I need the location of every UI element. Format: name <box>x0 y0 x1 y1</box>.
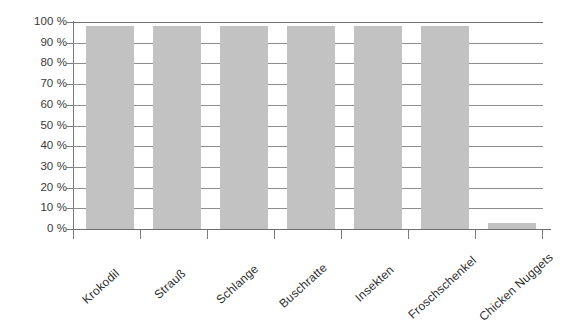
bar-schlange <box>220 26 268 229</box>
x-tick-mark <box>274 230 275 239</box>
bar-chart: 100 % 90 % 80 % 70 % 60 % 50 % 40 % 30 %… <box>0 0 577 322</box>
bar-insekten <box>354 26 402 229</box>
bar-froschschenkel <box>421 26 469 229</box>
y-tick-label: 40 % <box>7 140 67 152</box>
x-tick-mark <box>207 230 208 239</box>
y-axis-tick-labels: 100 % 90 % 80 % 70 % 60 % 50 % 40 % 30 %… <box>5 0 67 322</box>
y-tick-label: 90 % <box>7 37 67 49</box>
y-tick-label: 20 % <box>7 182 67 194</box>
y-tick-label: 10 % <box>7 202 67 214</box>
x-tick-mark <box>140 230 141 239</box>
x-tick-mark <box>73 230 74 239</box>
y-tick-label: 50 % <box>7 120 67 132</box>
y-tick-label: 100 % <box>7 16 67 28</box>
bar-buschratte <box>287 26 335 229</box>
x-tick-mark <box>341 230 342 239</box>
y-tick-label: 80 % <box>7 57 67 69</box>
x-category-label-buschratte: Buschratte <box>277 261 330 310</box>
bar-krokodil <box>86 26 134 229</box>
x-category-label-froschschenkel: Froschschenkel <box>406 254 479 322</box>
plot-area <box>73 22 543 229</box>
x-axis-line <box>73 229 551 230</box>
bar-strauss <box>153 26 201 229</box>
x-category-label-chicken-nuggets: Chicken Nuggets <box>477 251 556 322</box>
x-tick-mark <box>408 230 409 239</box>
x-category-label-schlange: Schlange <box>214 262 261 306</box>
y-tick-label: 30 % <box>7 161 67 173</box>
y-tick-label: 60 % <box>7 99 67 111</box>
x-category-label-strauss: Strauß <box>152 267 188 302</box>
bar-chicken-nuggets <box>488 223 536 229</box>
x-category-label-krokodil: Krokodil <box>80 267 122 307</box>
x-tick-mark <box>475 230 476 239</box>
x-tick-mark <box>542 230 543 239</box>
x-category-label-insekten: Insekten <box>353 264 397 305</box>
y-tick-label: 0 % <box>7 223 67 235</box>
y-tick-label: 70 % <box>7 78 67 90</box>
gridline-100 <box>73 22 543 23</box>
